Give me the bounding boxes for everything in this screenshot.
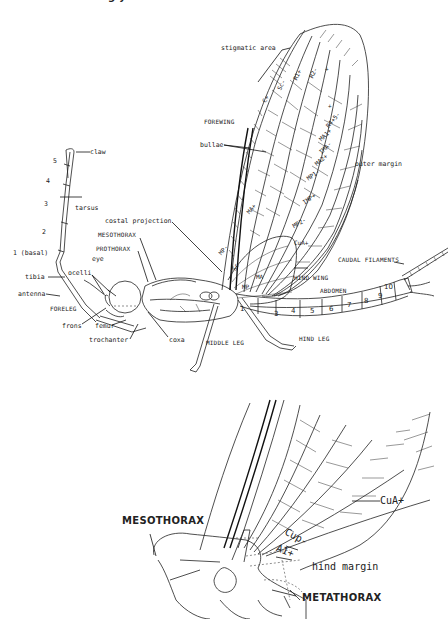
segment-5: 5 [310, 308, 314, 315]
label-coxa: coxa [169, 337, 185, 344]
label-mesothorax: MESOTHORAX [98, 232, 136, 238]
label-bullae: bullae [200, 142, 223, 149]
vein-cua: CuA+ [294, 240, 308, 246]
label-forewing: FOREWING [204, 119, 235, 125]
label-middle-leg: MIDDLE LEG [206, 340, 244, 346]
vein-mp-hind: MP [242, 284, 249, 290]
label-stigmatic-area: stigmatic area [221, 45, 276, 52]
detail-label-mesothorax: MESOTHORAX [122, 516, 204, 526]
label-frons: frons [62, 323, 82, 330]
label-femur: femur [95, 323, 115, 330]
label-caudal-filaments: CAUDAL FILAMENTS [338, 257, 399, 263]
abdomen-drawing [236, 278, 434, 318]
segment-1: 1 [240, 306, 244, 313]
detail-drawing [153, 400, 434, 619]
label-tarsal-3: 3 [44, 201, 48, 208]
vein-plus-1: + [325, 66, 329, 72]
vein-ma-hind: MA [256, 274, 263, 280]
detail-label-metathorax: METATHORAX [302, 593, 382, 603]
segment-9: 9 [378, 293, 382, 300]
label-trochanter: trochanter [89, 337, 128, 344]
label-claw: claw [90, 149, 106, 156]
detail-label-hind-margin: hind margin [312, 562, 378, 572]
diagram-canvas: g y [0, 0, 448, 619]
caudal-filaments-drawing [402, 248, 448, 280]
label-ocelli: ocelli [68, 270, 91, 277]
label-tibia: tibia [25, 274, 45, 281]
label-tarsal-1-basal: 1 (basal) [13, 250, 48, 257]
label-outer-margin: outer margin [355, 161, 402, 168]
segment-6: 6 [329, 306, 333, 313]
label-tarsal-4: 4 [46, 178, 50, 185]
label-antenna: antenna [18, 291, 45, 298]
label-foreleg: FORELEG [50, 306, 77, 312]
segment-7: 7 [347, 302, 351, 309]
hind-leg-drawing [238, 298, 296, 350]
label-tarsus: tarsus [75, 205, 98, 212]
label-hind-leg: HIND LEG [299, 336, 330, 342]
label-prothorax: PROTHORAX [96, 246, 130, 252]
vein-plus-2: + [328, 103, 332, 109]
label-costal-projection: costal projection [105, 218, 172, 225]
label-eye: eye [92, 256, 104, 263]
detail-label-cua: CuA+ [380, 496, 404, 506]
leader-lines [46, 48, 404, 339]
label-abdomen: ABDOMEN [320, 288, 347, 294]
label-tarsal-2: 2 [42, 229, 46, 236]
segment-3: 3 [274, 311, 278, 318]
antenna-drawing [84, 280, 106, 296]
label-tarsal-5: 5 [53, 158, 57, 165]
segment-10: 10 [384, 284, 393, 291]
middle-leg-drawing [190, 304, 218, 372]
segment-8: 8 [364, 298, 368, 305]
segment-4: 4 [291, 308, 295, 315]
label-hind-wing: HIND WING [294, 275, 328, 281]
head-drawing [105, 281, 141, 317]
thorax-drawing [142, 278, 238, 322]
